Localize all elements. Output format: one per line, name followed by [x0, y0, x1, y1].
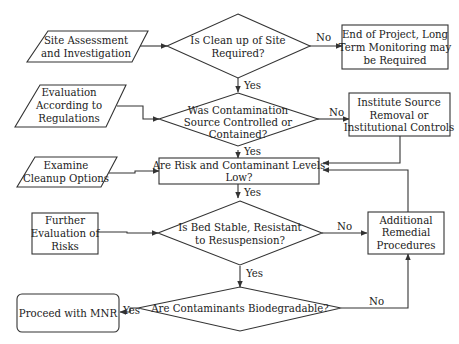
svg-text:Are Risk and Contaminant Level: Are Risk and Contaminant Levels: [152, 160, 326, 171]
svg-text:Term Monitoring may: Term Monitoring may: [339, 42, 452, 53]
edge-evaluation-to-source: [117, 106, 159, 119]
node-examine-cleanup: Examine Cleanup Options: [17, 157, 117, 187]
node-cleanup-decision: Is Clean up of Site Required?: [167, 14, 310, 78]
edge-additional-to-risk: [323, 170, 408, 212]
svg-text:Are Contaminants Biodegradable: Are Contaminants Biodegradable?: [150, 303, 329, 314]
edge-institute-to-risk: [323, 136, 400, 163]
node-bed-decision: Is Bed Stable, Resistant to Resuspension…: [158, 201, 322, 265]
svg-text:Source Controlled or: Source Controlled or: [184, 117, 293, 128]
label-yes-biodegradable: Yes: [122, 305, 140, 316]
node-risk-decision: Are Risk and Contaminant Levels Low?: [152, 158, 326, 184]
svg-text:Contained?: Contained?: [209, 129, 268, 140]
svg-text:Low?: Low?: [225, 172, 252, 183]
node-source-decision: Was Contamination Source Controlled or C…: [159, 93, 318, 146]
node-additional-remedial: Additional Remedial Procedures: [368, 212, 444, 254]
svg-text:Was Contamination: Was Contamination: [188, 105, 289, 116]
svg-text:End of Project, Long: End of Project, Long: [342, 29, 449, 40]
svg-text:Site Assessment: Site Assessment: [44, 35, 129, 46]
label-no-cleanup: No: [316, 32, 331, 43]
edge-further-to-bed: [98, 232, 158, 233]
node-end-of-project: End of Project, Long Term Monitoring may…: [339, 25, 452, 69]
svg-text:Examine: Examine: [44, 160, 89, 171]
svg-text:Evaluation: Evaluation: [41, 87, 97, 98]
svg-text:Remedial: Remedial: [382, 227, 431, 238]
svg-text:Required?: Required?: [212, 48, 265, 59]
svg-text:Procedures: Procedures: [377, 240, 436, 251]
node-evaluation-regulations: Evaluation According to Regulations: [15, 85, 126, 127]
label-no-bed: No: [337, 221, 352, 232]
svg-text:and Investigation: and Investigation: [41, 48, 131, 59]
label-yes-risk: Yes: [243, 187, 261, 198]
svg-text:be Required: be Required: [363, 55, 427, 66]
svg-text:Further: Further: [45, 215, 85, 226]
svg-text:Evaluation of: Evaluation of: [31, 228, 101, 239]
svg-text:Institutional Controls: Institutional Controls: [344, 122, 455, 133]
node-site-assessment: Site Assessment and Investigation: [27, 31, 148, 62]
svg-text:Removal or: Removal or: [370, 110, 429, 121]
edge-examine-to-risk: [109, 171, 159, 173]
svg-text:to Resuspension?: to Resuspension?: [195, 235, 285, 246]
label-no-source: No: [329, 107, 344, 118]
node-institute-source: Institute Source Removal or Institutiona…: [344, 93, 455, 136]
node-further-evaluation: Further Evaluation of Risks: [31, 213, 101, 254]
svg-text:According to: According to: [35, 100, 102, 111]
label-no-biodegradable: No: [369, 296, 384, 307]
svg-text:Regulations: Regulations: [38, 113, 99, 124]
svg-text:Cleanup Options: Cleanup Options: [23, 173, 109, 184]
svg-text:Is Clean up of Site: Is Clean up of Site: [190, 35, 285, 46]
label-yes-bed: Yes: [245, 268, 263, 279]
svg-text:Is Bed Stable, Resistant: Is Bed Stable, Resistant: [178, 222, 302, 233]
label-yes-source: Yes: [243, 146, 261, 157]
svg-text:Proceed with MNR: Proceed with MNR: [19, 308, 118, 319]
label-yes-cleanup: Yes: [243, 80, 261, 91]
svg-text:Institute Source: Institute Source: [357, 97, 440, 108]
svg-text:Risks: Risks: [51, 241, 79, 252]
flowchart: No Yes No Yes Yes No Yes No Yes Site Ass…: [0, 0, 459, 344]
svg-text:Additional: Additional: [378, 215, 432, 226]
node-biodegradable-decision: Are Contaminants Biodegradable?: [138, 287, 341, 331]
node-proceed-mnr: Proceed with MNR: [17, 294, 119, 332]
